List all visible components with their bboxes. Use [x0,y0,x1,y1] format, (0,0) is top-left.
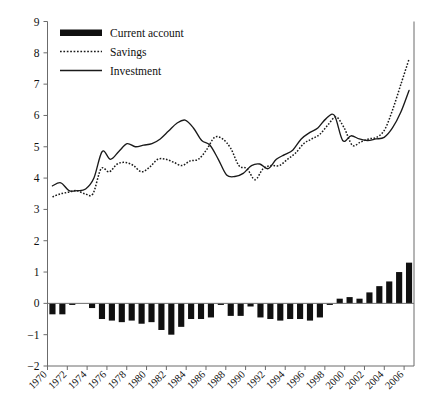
x-tick-label: 2004 [363,368,386,391]
bar-current-account [59,303,65,314]
bar-current-account [277,303,283,320]
investment-line [52,90,409,191]
bar-current-account [287,303,293,319]
y-tick-label: 8 [34,47,40,59]
bar-current-account [178,303,184,326]
bar-current-account [119,303,125,322]
bar-current-account [396,272,402,303]
bar-current-account [198,303,204,319]
bar-current-account [168,303,174,334]
current-account-bars [49,263,412,335]
x-tick-label: 1982 [145,369,168,392]
y-axis-ticks: −2−10123456789 [27,16,47,373]
x-tick-label: 1986 [185,369,208,392]
legend-label: Savings [110,46,147,59]
y-tick-label: 7 [34,78,40,90]
x-tick-label: 1998 [304,369,327,392]
x-tick-label: 1988 [205,369,228,392]
x-tick-label: 1970 [26,369,49,392]
bar-current-account [297,303,303,319]
bar-current-account [257,303,263,317]
x-tick-label: 2002 [343,369,366,392]
bar-current-account [99,303,105,319]
bar-current-account [317,303,323,317]
bar-current-account [376,286,382,303]
bar-current-account [89,303,95,308]
x-tick-label: 1978 [106,369,129,392]
x-tick-label: 1992 [244,369,267,392]
series-lines [52,59,409,197]
bar-current-account [109,303,115,320]
y-tick-label: 9 [34,16,40,28]
x-tick-label: 1976 [86,369,109,392]
chart-container: Current accountSavingsInvestment −2−1012… [0,0,425,409]
bar-current-account [356,299,362,304]
y-tick-label: 4 [34,172,40,184]
bar-current-account [337,299,343,304]
bar-current-account [49,303,55,314]
y-tick-label: 1 [34,266,40,278]
bar-current-account [139,303,145,323]
bar-current-account [188,303,194,319]
bar-current-account [148,303,154,322]
x-tick-label: 1990 [224,369,247,392]
chart-legend: Current accountSavingsInvestment [60,27,185,77]
legend-swatch-current-account [60,30,102,37]
x-tick-label: 2006 [383,369,406,392]
x-axis-ticks: 1970197219741976197819801982198419861988… [26,366,405,391]
x-tick-label: 1980 [125,369,148,392]
bar-current-account [238,303,244,316]
y-tick-label: 3 [34,203,40,215]
bar-current-account [208,303,214,317]
bar-current-account [386,281,392,303]
y-tick-label: 5 [34,141,40,153]
x-tick-label: 1996 [284,369,307,392]
bar-current-account [307,303,313,320]
bar-current-account [347,297,353,303]
x-tick-label: 1974 [66,368,89,391]
y-tick-label: 6 [34,109,40,121]
x-tick-label: 1994 [264,368,287,391]
x-tick-label: 2000 [323,369,346,392]
y-tick-label: 2 [34,235,40,247]
legend-label: Investment [110,65,162,77]
y-tick-label: 0 [34,297,40,309]
x-tick-label: 1972 [46,369,69,392]
bar-current-account [366,292,372,303]
bar-current-account [228,303,234,316]
legend-label: Current account [110,27,185,39]
bar-current-account [129,303,135,320]
economic-indicators-chart: Current accountSavingsInvestment −2−1012… [0,0,425,409]
bar-current-account [267,303,273,319]
x-tick-label: 1984 [165,368,188,391]
y-tick-label: −2 [27,360,39,372]
bar-current-account [158,303,164,330]
y-tick-label: −1 [27,329,39,341]
bar-current-account [406,263,412,304]
